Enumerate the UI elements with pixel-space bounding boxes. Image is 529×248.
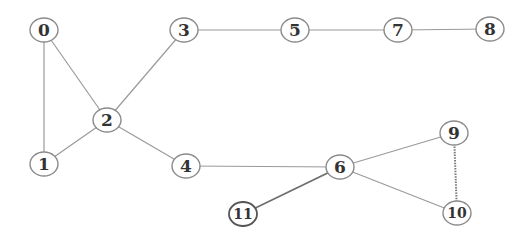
node-label: 4 [180, 156, 192, 176]
edge-0-2 [44, 30, 107, 120]
graph-diagram: 01234567891011 [0, 0, 529, 248]
node-3: 3 [170, 18, 198, 42]
edge-4-6 [186, 166, 340, 167]
node-4: 4 [172, 154, 200, 178]
node-label: 2 [101, 110, 113, 130]
node-label: 0 [38, 20, 50, 40]
edge-6-9 [340, 133, 454, 167]
node-label: 3 [178, 20, 190, 40]
node-11: 11 [229, 202, 257, 226]
node-label: 7 [392, 20, 404, 40]
edge-2-3 [107, 30, 184, 120]
node-7: 7 [384, 18, 412, 42]
node-9: 9 [440, 121, 468, 145]
node-label: 10 [447, 205, 467, 221]
node-2: 2 [93, 108, 121, 132]
node-label: 9 [448, 123, 460, 143]
node-10: 10 [443, 201, 471, 225]
node-8: 8 [476, 17, 504, 41]
edge-6-11 [243, 167, 340, 214]
node-5: 5 [281, 18, 309, 42]
nodes-layer: 01234567891011 [30, 17, 504, 226]
node-label: 5 [289, 20, 301, 40]
node-label: 8 [484, 19, 496, 39]
node-label: 1 [38, 154, 50, 174]
edge-6-10 [340, 167, 457, 213]
node-label: 6 [334, 157, 346, 177]
node-6: 6 [326, 155, 354, 179]
graph-canvas: 01234567891011 [0, 0, 529, 248]
node-1: 1 [30, 152, 58, 176]
node-0: 0 [30, 18, 58, 42]
node-label: 11 [233, 206, 252, 222]
